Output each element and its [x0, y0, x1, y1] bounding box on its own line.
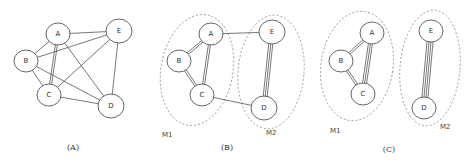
- node-b: B: [329, 50, 353, 72]
- node-label: B: [339, 57, 344, 65]
- module-m1-boundary: [314, 7, 401, 126]
- node-label: C: [361, 90, 366, 98]
- node-label: D: [108, 102, 113, 110]
- node-c: C: [351, 83, 375, 105]
- panel-caption-b: (B): [221, 143, 233, 152]
- node-c: C: [37, 84, 61, 106]
- module-m1-label: M1: [162, 131, 173, 139]
- edge-b-e: [26, 31, 119, 61]
- module-m2-label: M2: [266, 129, 277, 137]
- node-label: B: [24, 57, 29, 65]
- module-m1-label: M1: [330, 127, 341, 135]
- node-label: A: [209, 30, 214, 38]
- edge-a-d: [58, 34, 111, 106]
- node-a: A: [199, 23, 223, 45]
- node-label: A: [370, 29, 375, 37]
- node-d: D: [98, 94, 124, 118]
- node-label: C: [47, 91, 52, 99]
- node-label: E: [270, 28, 274, 36]
- node-label: C: [200, 91, 205, 99]
- node-e: E: [106, 19, 132, 43]
- node-a: A: [360, 22, 384, 44]
- node-a: A: [46, 23, 70, 45]
- node-label: A: [56, 30, 61, 38]
- node-d: D: [412, 97, 436, 119]
- label-layer: (A)M1M2(B)M1M2(C): [67, 123, 451, 154]
- node-label: B: [177, 57, 182, 65]
- panel-caption-c: (C): [383, 145, 395, 154]
- node-e: E: [259, 20, 285, 44]
- node-b: B: [14, 50, 38, 72]
- node-label: D: [421, 104, 426, 112]
- module-m1-boundary: [152, 9, 242, 132]
- node-e: E: [419, 20, 443, 42]
- node-b: B: [167, 50, 191, 72]
- node-c: C: [190, 84, 214, 106]
- node-label: E: [429, 27, 433, 35]
- node-label: E: [117, 27, 121, 35]
- node-label: D: [261, 104, 266, 112]
- graph-modularization-diagram: ABCDEABCDEABCDE (A)M1M2(B)M1M2(C): [0, 0, 472, 164]
- panel-caption-a: (A): [67, 143, 79, 152]
- module-m2-label: M2: [440, 123, 451, 131]
- node-d: D: [251, 96, 277, 120]
